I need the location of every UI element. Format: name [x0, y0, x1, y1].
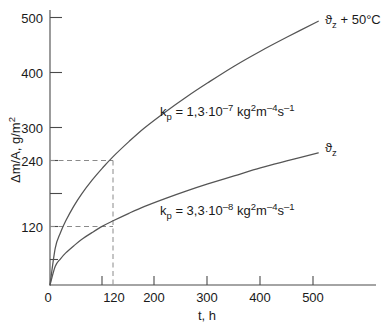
x-tick-label-500: 500	[302, 290, 324, 305]
x-tick-label-400: 400	[249, 290, 271, 305]
kp-upper-exponent: –7	[223, 102, 234, 113]
y-tick-labels: 500 400 300 240 120	[21, 11, 43, 235]
curve-label-upper-suffix: + 50°C	[337, 12, 381, 27]
curve-theta-z-plus-50c	[50, 21, 318, 285]
kp-upper-unit-m: m	[256, 104, 267, 119]
kp-lower-unit-m: m	[256, 203, 267, 218]
y-tick-label-240: 240	[21, 154, 43, 169]
figure-container: 500 400 300 240 120 0 120 200 300 400 50…	[0, 0, 390, 326]
annotation-kp-lower: kp = 3,3·10–8 kg2m–4s–1	[160, 201, 295, 221]
kp-upper-unit-s-exp: –1	[284, 102, 295, 113]
y-tick-label-120: 120	[21, 220, 43, 235]
kp-lower-base: 10	[208, 203, 222, 218]
y-axis-title-exponent: 2	[6, 117, 17, 122]
kp-upper-base: 10	[208, 104, 222, 119]
svg-text:kp = 1,3·10–7 kg2m–4s–1: kp = 1,3·10–7 kg2m–4s–1	[160, 102, 295, 122]
y-tick-label-400: 400	[21, 66, 43, 81]
x-tick-label-200: 200	[143, 290, 165, 305]
curve-label-upper: ϑz + 50°C	[325, 12, 381, 30]
kp-upper-equals: = 1,3	[172, 104, 205, 119]
curve-label-lower: ϑz	[325, 140, 337, 158]
curve-theta-z	[50, 153, 318, 285]
cropped-caption	[2, 315, 222, 326]
x-tick-marks	[102, 276, 313, 285]
y-axis-title: Δm/A, g/m2	[6, 117, 23, 183]
svg-text:ϑz: ϑz	[325, 140, 337, 158]
svg-text:ϑz + 50°C: ϑz + 50°C	[325, 12, 381, 30]
kp-lower-exponent: –8	[223, 201, 234, 212]
x-tick-label-0: 0	[44, 290, 51, 305]
y-axis-title-main: Δm/A, g/m	[8, 122, 23, 183]
oxidation-kinetics-chart: 500 400 300 240 120 0 120 200 300 400 50…	[0, 0, 390, 326]
kp-lower-equals: = 3,3	[172, 203, 205, 218]
y-tick-label-500: 500	[21, 11, 43, 26]
x-tick-label-300: 300	[196, 290, 218, 305]
kp-upper-unit-m-exp: –4	[267, 102, 278, 113]
x-tick-labels: 0 120 200 300 400 500	[44, 290, 323, 305]
guide-lines-group	[50, 161, 113, 286]
kp-lower-unit-s-exp: –1	[284, 201, 295, 212]
svg-text:Δm/A, g/m2: Δm/A, g/m2	[6, 117, 23, 183]
annotation-kp-upper: kp = 1,3·10–7 kg2m–4s–1	[160, 102, 295, 122]
curve-label-lower-subscript: z	[332, 147, 337, 158]
svg-text:kp = 3,3·10–8 kg2m–4s–1: kp = 3,3·10–8 kg2m–4s–1	[160, 201, 295, 221]
y-tick-label-300: 300	[21, 121, 43, 136]
kp-lower-unit-kg: kg	[233, 203, 250, 218]
curves-group	[50, 21, 318, 285]
kp-upper-unit-kg: kg	[233, 104, 250, 119]
x-tick-label-120: 120	[103, 290, 125, 305]
leader-upper	[128, 112, 150, 135]
kp-lower-unit-m-exp: –4	[267, 201, 278, 212]
y-tick-marks	[50, 18, 62, 260]
